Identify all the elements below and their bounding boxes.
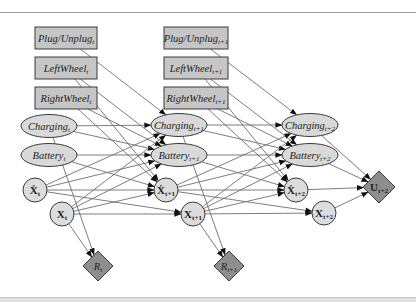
edge-charge_t-to-batt_t1	[74, 132, 155, 150]
node-u-t2: Ut+2	[363, 171, 395, 203]
node-plug-t: Plug/Unplugt	[35, 27, 97, 49]
edge-x_t-to-r_t	[69, 224, 92, 257]
edge-right_t-to-batt_t1	[88, 109, 162, 146]
node-r-t1: Rt+1	[214, 251, 244, 281]
node-right-t: RightWheelt	[35, 87, 97, 109]
edge-x_t2-to-u_t2	[335, 192, 368, 208]
edge-right_t-to-xdot_t1	[78, 109, 157, 182]
node-batt-t2: Batteryt+2	[282, 144, 338, 167]
node-charge-t2: Chargingt+2	[282, 114, 338, 137]
edge-charge_t-to-charge_t1	[77, 125, 151, 126]
node-x-t2: Xt+2	[312, 201, 336, 225]
edge-batt_t-to-xdot_t1	[72, 162, 155, 187]
edge-xdot_t2-to-u_t2	[308, 188, 364, 190]
node-r-t: Rt	[83, 251, 113, 281]
node-batt-t: Batteryt	[21, 144, 77, 167]
node-batt-t1: Batteryt+1	[151, 144, 207, 167]
bottom-band	[0, 297, 416, 302]
edge-batt_t2-to-u_t2	[329, 164, 369, 182]
node-xdot-t1: Ẋt+1	[154, 178, 178, 202]
node-xdot-t: Ẋt	[23, 178, 47, 202]
edge-x_t1-to-r_t1	[200, 224, 223, 257]
node-left-t: LeftWheelt	[35, 57, 97, 79]
node-right-t1: RightWheelt+1	[164, 87, 228, 109]
node-x-t1: Xt+1	[181, 202, 205, 226]
nodes-layer: Plug/UnplugtLeftWheeltRightWheeltChargin…	[21, 27, 395, 281]
node-x-t: Xt	[50, 202, 74, 226]
edge-x_t-to-batt_t1	[73, 164, 162, 209]
node-charge-t1: Chargingt+1	[151, 114, 207, 137]
dynamic-bayesian-network-figure: Plug/UnplugtLeftWheeltRightWheeltChargin…	[0, 0, 416, 302]
edge-x_t1-to-charge_t2	[203, 135, 297, 207]
diagram-canvas: Plug/UnplugtLeftWheeltRightWheeltChargin…	[0, 0, 416, 302]
edge-x_t1-to-x_t2	[205, 213, 312, 214]
edge-right_t1-to-xdot_t2	[208, 109, 287, 182]
node-plug-t1: Plug/Unplugt+1	[163, 27, 228, 49]
node-xdot-t2: Ẋt+2	[284, 178, 308, 202]
node-charge-t: Chargingt	[21, 115, 77, 138]
edge-charge_t1-to-batt_t2	[204, 131, 286, 150]
node-left-t1: LeftWheelt+1	[164, 57, 228, 79]
